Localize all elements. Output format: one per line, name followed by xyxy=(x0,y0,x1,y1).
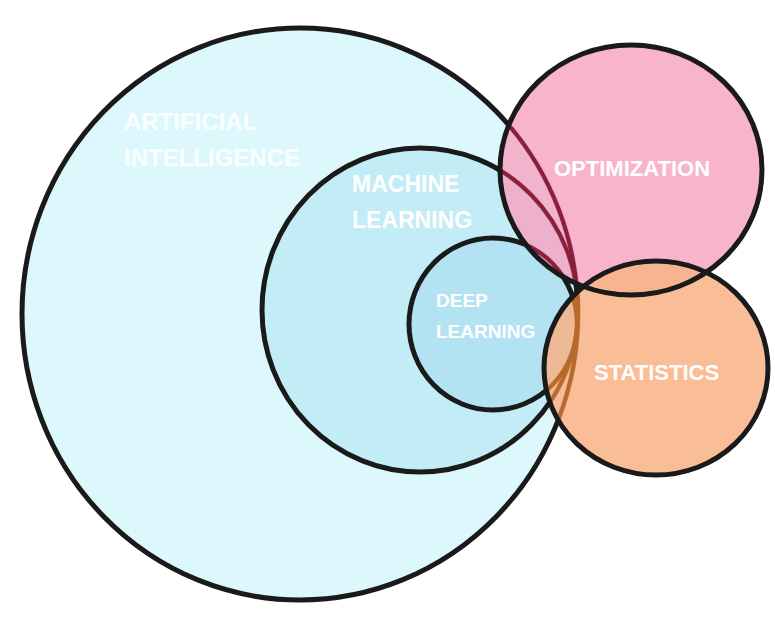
statistics-label: STATISTICS xyxy=(594,360,719,385)
optimization-label: OPTIMIZATION xyxy=(554,156,710,181)
venn-diagram: ARTIFICIAL INTELLIGENCE MACHINE LEARNING… xyxy=(0,0,775,620)
